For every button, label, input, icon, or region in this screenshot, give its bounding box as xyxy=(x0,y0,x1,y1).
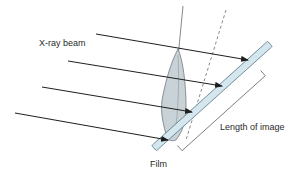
film-label: Film xyxy=(150,159,167,169)
diagram-canvas: X-ray beam Length of image Film xyxy=(0,0,297,181)
image-length-label: Length of image xyxy=(220,122,285,132)
xray-arrow-1 xyxy=(96,34,248,60)
xray-beam-label: X-ray beam xyxy=(39,38,86,48)
diagram-svg xyxy=(0,0,297,181)
xray-arrow-2 xyxy=(68,61,222,86)
bisecting-dashed-line xyxy=(186,10,226,140)
xray-arrow-4 xyxy=(15,113,168,140)
